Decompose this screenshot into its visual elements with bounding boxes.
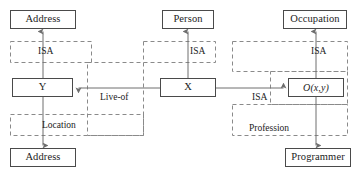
entity-address-top[interactable]: Address: [10, 10, 76, 29]
entity-address-bottom[interactable]: Address: [10, 148, 76, 167]
entity-label: X: [184, 82, 192, 93]
entity-label: O(x,y): [303, 83, 329, 93]
region-label-profession: Profession: [249, 124, 289, 134]
entity-label: Person: [173, 14, 202, 25]
region-label-isa-middle: ISA: [190, 47, 205, 57]
diagram-canvas: Address Y Address Person X Occupation O(…: [0, 0, 358, 176]
region-label-isa-left: ISA: [38, 47, 53, 57]
region-label-live-of: Live-of: [100, 93, 129, 103]
entity-label: Programmer: [291, 152, 345, 163]
entity-label: Occupation: [290, 14, 339, 25]
entity-o-xy[interactable]: O(x,y): [288, 78, 344, 97]
entity-person[interactable]: Person: [162, 10, 214, 29]
entity-label: Y: [39, 82, 47, 93]
entity-x[interactable]: X: [160, 78, 216, 97]
region-label-location: Location: [42, 121, 76, 131]
entity-label: Address: [25, 152, 60, 163]
entity-programmer[interactable]: Programmer: [285, 148, 351, 167]
entity-occupation[interactable]: Occupation: [283, 10, 347, 29]
region-label-isa-right-inner: ISA: [252, 93, 267, 103]
region-label-isa-right-top: ISA: [311, 47, 326, 57]
entity-label: Address: [25, 14, 60, 25]
entity-y[interactable]: Y: [12, 78, 73, 97]
